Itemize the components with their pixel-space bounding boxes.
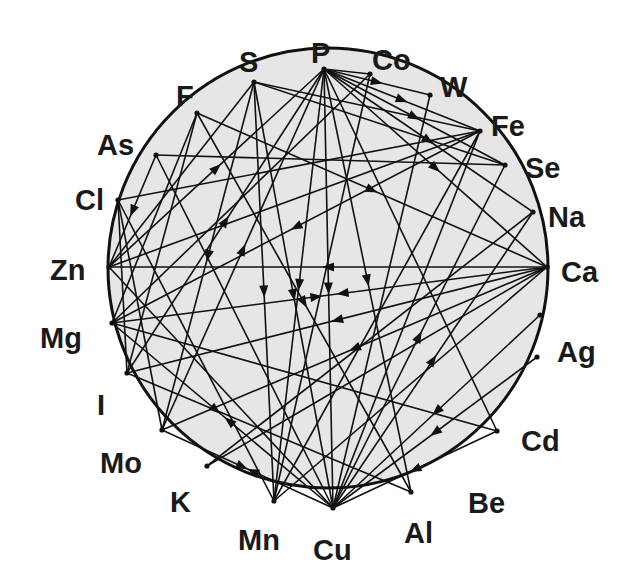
node-dot-ca (544, 264, 549, 269)
node-dot-mn (271, 498, 276, 503)
node-dot-as (153, 152, 158, 157)
node-dot-mg (109, 320, 114, 325)
node-label-w: W (440, 71, 468, 103)
node-label-fe: Fe (491, 110, 525, 142)
node-dot-i (124, 370, 129, 375)
node-label-cl: Cl (75, 184, 104, 216)
node-dot-w (427, 92, 432, 97)
node-label-mn: Mn (238, 524, 280, 556)
node-label-co: Co (372, 44, 411, 76)
node-label-s: S (239, 46, 258, 78)
node-label-na: Na (548, 201, 586, 233)
node-label-ca: Ca (561, 256, 599, 288)
node-label-be: Be (468, 487, 505, 519)
node-label-al: Al (404, 517, 433, 549)
node-label-se: Se (525, 152, 560, 184)
node-dot-f (194, 110, 199, 115)
node-dot-na (530, 209, 535, 214)
node-dot-k (204, 463, 209, 468)
node-label-zn: Zn (50, 254, 85, 286)
node-dot-se (502, 162, 507, 167)
node-label-cd: Cd (521, 425, 560, 457)
node-dot-zn (106, 264, 111, 269)
node-label-f: F (176, 80, 194, 112)
node-label-i: I (97, 389, 105, 421)
node-dot-mo (159, 427, 164, 432)
node-dot-cd (534, 354, 539, 359)
node-dot-al (408, 489, 413, 494)
node-dot-be (494, 428, 499, 433)
mineral-interaction-diagram: PCoWFeSeNaCaAgCdBeAlCuMnKMoIMgZnClAsFS (0, 0, 640, 583)
node-dot-cl (115, 197, 120, 202)
node-dot-fe (477, 128, 482, 133)
node-label-mo: Mo (100, 447, 142, 479)
node-dot-ag (537, 312, 542, 317)
node-label-p: P (311, 37, 330, 69)
node-dot-s (251, 79, 256, 84)
node-label-k: K (170, 486, 191, 518)
node-label-mg: Mg (40, 322, 82, 354)
node-label-cu: Cu (313, 534, 352, 566)
node-label-ag: Ag (557, 336, 596, 368)
node-label-as: As (97, 129, 134, 161)
node-dot-cu (330, 505, 335, 510)
